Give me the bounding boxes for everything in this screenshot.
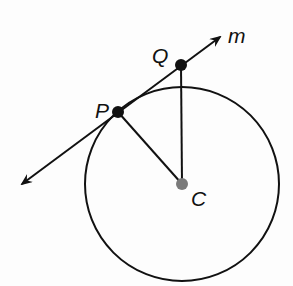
- label-m: m: [228, 24, 246, 47]
- point-q-dot: [175, 59, 187, 71]
- segment-pc: [118, 112, 182, 184]
- label-p: P: [95, 99, 109, 122]
- diagram-canvas: m Q P C: [0, 0, 293, 286]
- center-c-dot: [176, 178, 188, 190]
- tangent-line-diagram: m Q P C: [0, 0, 293, 286]
- segment-qc: [181, 65, 182, 184]
- label-q: Q: [152, 44, 168, 67]
- label-c: C: [191, 187, 207, 210]
- point-p-dot: [112, 106, 124, 118]
